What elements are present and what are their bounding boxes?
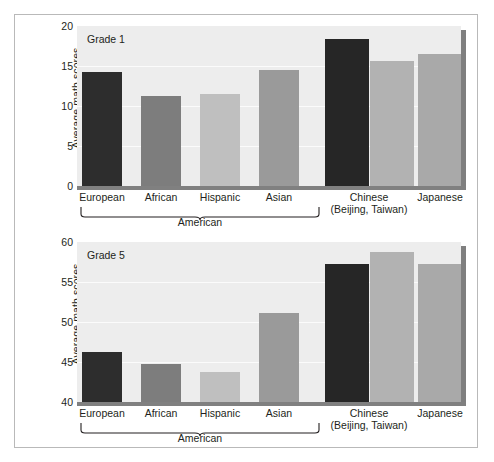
plot-area-bottom: Grade 5 bbox=[77, 242, 461, 402]
x-axis-label: African bbox=[145, 191, 178, 203]
bar bbox=[141, 96, 181, 186]
x-axis-label: Japanese bbox=[417, 407, 463, 419]
x-axis-label-line-1: Japanese bbox=[417, 191, 463, 203]
bar bbox=[325, 39, 369, 186]
bar bbox=[259, 313, 299, 402]
y-tick-label: 0 bbox=[67, 180, 73, 192]
y-tick-label: 45 bbox=[61, 356, 73, 368]
plot-area-top: Grade 1 bbox=[77, 26, 461, 186]
bar bbox=[141, 364, 181, 402]
y-tick-labels-top: 05101520 bbox=[43, 18, 73, 188]
x-axis-label-line-1: Hispanic bbox=[200, 407, 240, 419]
x-axis-label: Chinese(Beijing, Taiwan) bbox=[331, 191, 408, 215]
group-label-american-bottom: American bbox=[178, 432, 222, 444]
panel-label-grade-1: Grade 1 bbox=[87, 33, 125, 45]
x-axis-label-line-2: (Beijing, Taiwan) bbox=[331, 203, 408, 215]
bar bbox=[200, 372, 240, 402]
y-tick-labels-bottom: 4045505560 bbox=[43, 234, 73, 404]
bar bbox=[82, 72, 122, 186]
plot-shadow-bottom bbox=[461, 246, 466, 406]
panel-label-grade-5: Grade 5 bbox=[87, 249, 125, 261]
bar bbox=[200, 94, 240, 186]
x-axis-label-line-1: Chinese bbox=[331, 407, 408, 419]
figure-frame: Average math scores 05101520 Grade 1 Eur… bbox=[14, 14, 478, 448]
x-axis-label: African bbox=[145, 407, 178, 419]
x-axis-label: European bbox=[79, 191, 125, 203]
x-axis-labels-top: EuropeanAfricanHispanicAsianChinese(Beij… bbox=[77, 191, 461, 225]
x-axis-label-line-1: Asian bbox=[266, 407, 292, 419]
x-axis-label-line-1: African bbox=[145, 191, 178, 203]
x-axis-label-line-1: European bbox=[79, 407, 125, 419]
panel-grade-1: Average math scores 05101520 Grade 1 Eur… bbox=[15, 18, 479, 223]
y-tick-label: 5 bbox=[67, 140, 73, 152]
bar bbox=[325, 264, 369, 402]
group-label-american-top: American bbox=[178, 216, 222, 228]
plot-shadow-top bbox=[461, 30, 466, 190]
x-axis-label-line-1: Hispanic bbox=[200, 191, 240, 203]
panel-grade-5: Average math scores 4045505560 Grade 5 E… bbox=[15, 234, 479, 439]
bar bbox=[259, 70, 299, 186]
bar bbox=[370, 252, 414, 402]
bar bbox=[418, 54, 462, 186]
x-axis-label-line-1: Asian bbox=[266, 191, 292, 203]
bar bbox=[418, 264, 462, 402]
y-tick-label: 15 bbox=[61, 60, 73, 72]
x-axis-label-line-1: Chinese bbox=[331, 191, 408, 203]
x-axis-label: Hispanic bbox=[200, 407, 240, 419]
y-tick-label: 20 bbox=[61, 20, 73, 32]
plot-baseline-bottom bbox=[77, 402, 466, 406]
bar bbox=[370, 61, 414, 186]
bar bbox=[82, 352, 122, 402]
x-axis-label: Hispanic bbox=[200, 191, 240, 203]
y-tick-label: 40 bbox=[61, 396, 73, 408]
y-tick-label: 50 bbox=[61, 316, 73, 328]
x-axis-label-line-1: African bbox=[145, 407, 178, 419]
y-tick-label: 55 bbox=[61, 276, 73, 288]
x-axis-label-line-2: (Beijing, Taiwan) bbox=[331, 419, 408, 431]
x-axis-label: Asian bbox=[266, 407, 292, 419]
x-axis-label-line-1: European bbox=[79, 191, 125, 203]
x-axis-label-line-1: Japanese bbox=[417, 407, 463, 419]
x-axis-label: Asian bbox=[266, 191, 292, 203]
x-axis-label: Chinese(Beijing, Taiwan) bbox=[331, 407, 408, 431]
y-tick-label: 60 bbox=[61, 236, 73, 248]
x-axis-label: Japanese bbox=[417, 191, 463, 203]
y-tick-label: 10 bbox=[61, 100, 73, 112]
plot-baseline-top bbox=[77, 186, 466, 190]
x-axis-label: European bbox=[79, 407, 125, 419]
x-axis-labels-bottom: EuropeanAfricanHispanicAsianChinese(Beij… bbox=[77, 407, 461, 441]
